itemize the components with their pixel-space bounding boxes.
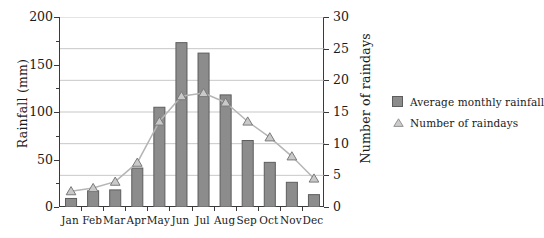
y-left-tick-major [54,17,59,18]
x-tick [125,207,126,211]
y-right-tick [324,112,329,113]
y-left-tick-major [54,160,59,161]
y-right-tick [324,207,329,208]
y-left-tick-minor [56,41,59,42]
raindays-marker-apr [132,158,142,166]
y-left-tick-major [54,112,59,113]
y-right-tick [324,144,329,145]
y-left-tick-major [54,65,59,66]
legend-triangle-icon [392,117,405,128]
chart-svg [60,17,325,207]
bar-dec [308,195,319,207]
y-left-tick-label: 200 [13,11,53,24]
bar-nov [286,182,297,207]
y-left-tick-label: 100 [13,106,53,119]
y-right-tick [324,80,329,81]
y-right-tick-label: 30 [333,11,373,24]
legend-label-raindays: Number of raindays [410,117,518,129]
y-right-tick-label: 25 [333,43,373,56]
bar-sep [242,141,253,208]
bar-jan [66,198,77,207]
y-left-tick-major [54,207,59,208]
y-left-tick-minor [56,136,59,137]
x-tick [302,207,303,211]
x-tick [169,207,170,211]
x-tick [103,207,104,211]
x-tick-label-dec: Dec [298,215,328,226]
x-tick [258,207,259,211]
x-tick [81,207,82,211]
y-right-tick [324,17,329,18]
bar-apr [132,168,143,207]
y-left-tick-label: 0 [13,201,53,214]
y-left-tick-minor [56,183,59,184]
y-right-tick [324,175,329,176]
raindays-marker-oct [265,133,275,141]
y-right-tick [324,49,329,50]
legend-label-rainfall: Average monthly rainfall [410,96,544,108]
y-left-tick-label: 50 [13,154,53,167]
y-left-tick-label: 150 [13,59,53,72]
y-right-tick-label: 20 [333,74,373,87]
bar-feb [88,191,99,207]
raindays-line [71,93,314,191]
x-tick [192,207,193,211]
x-tick [236,207,237,211]
y-right-tick-label: 5 [333,169,373,182]
legend-item-rainfall: Average monthly rainfall [392,93,522,110]
bar-aug [220,95,231,207]
chart-legend: Average monthly rainfall Number of raind… [392,93,522,135]
y-left-tick-minor [56,88,59,89]
legend-square-icon [392,96,403,107]
bar-jun [176,43,187,207]
bar-mar [110,190,121,207]
bar-jul [198,53,209,207]
y-right-tick-label: 0 [333,201,373,214]
y-right-tick-label: 15 [333,106,373,119]
legend-item-raindays: Number of raindays [392,114,522,131]
y-right-tick-label: 10 [333,138,373,151]
bar-oct [264,162,275,207]
x-tick [280,207,281,211]
x-tick [147,207,148,211]
plot-area [59,17,324,207]
x-tick [214,207,215,211]
